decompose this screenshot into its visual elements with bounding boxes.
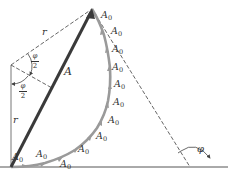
phasor-label: A0 — [114, 79, 125, 91]
resultant-label: A — [64, 66, 72, 77]
radius-left-label: r — [13, 115, 18, 125]
radius-top-label: r — [42, 27, 47, 37]
half-angle-label-top: φ 2 — [31, 53, 39, 70]
angle-phi-arc — [181, 147, 210, 158]
phasor-label: A0 — [113, 97, 124, 109]
phasor-label: A0 — [60, 159, 71, 171]
phasor-label: A0 — [96, 131, 107, 143]
half-angle-label-bottom: φ 2 — [19, 83, 27, 100]
phasor-label: A0 — [111, 26, 122, 38]
phasor-label: A0 — [78, 144, 89, 156]
phasor-label: A0 — [112, 62, 123, 74]
radius-top-line — [11, 9, 92, 65]
phasor-label: A0 — [108, 115, 119, 127]
phasor-diagram: r r A φ 2 φ 2 φ A0A0A0A0A0A0A0A0A0A0A0A0 — [0, 0, 228, 179]
phasor-label: A0 — [36, 149, 47, 161]
phasor-label: A0 — [12, 152, 23, 164]
phasor-arrowheads — [22, 12, 112, 168]
last-phasor-extension — [92, 9, 190, 167]
angle-phi-label: φ — [197, 144, 204, 154]
phasor-label: A0 — [101, 10, 112, 22]
phasor-label: A0 — [112, 44, 123, 56]
